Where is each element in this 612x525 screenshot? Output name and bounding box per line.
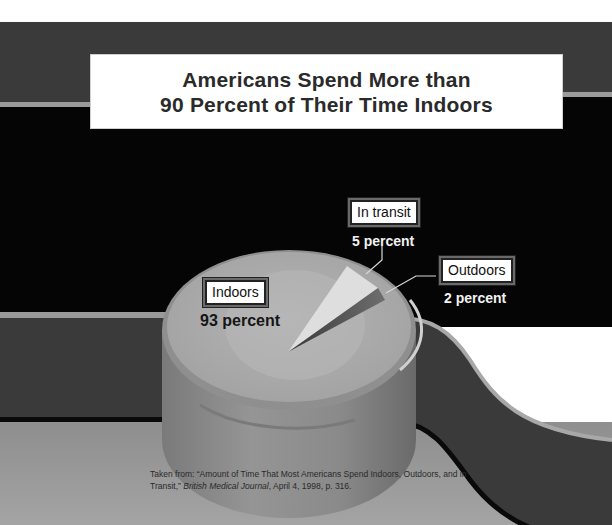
outdoors-label: Outdoors [441,258,513,283]
indoors-label: Indoors [205,280,266,305]
title-line-1: Americans Spend More than [182,67,471,92]
title-line-2: 90 Percent of Their Time Indoors [160,92,493,117]
in-transit-value: 5 percent [352,233,414,249]
source-citation: Taken from: “Amount of Time That Most Am… [150,468,480,492]
indoors-value: 93 percent [200,312,280,330]
source-suffix: , April 4, 1998, p. 316. [269,481,352,491]
in-transit-label: In transit [350,200,418,225]
outdoors-value: 2 percent [444,290,506,306]
infographic: Americans Spend More than 90 Percent of … [0,0,612,525]
chart-title: Americans Spend More than 90 Percent of … [90,54,563,129]
source-journal: British Medical Journal [183,481,269,491]
